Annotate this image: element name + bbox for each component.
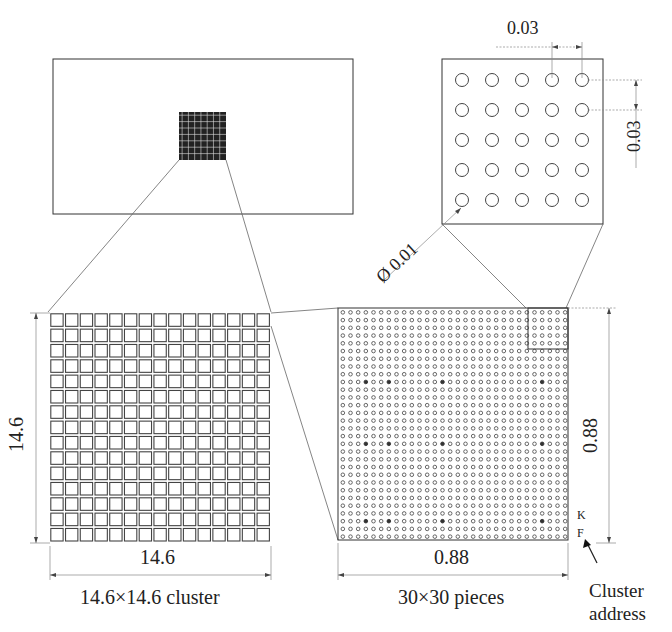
piece-dot [402,419,406,423]
piece-dot [517,504,521,508]
piece-dot [425,349,429,353]
cluster-cell [213,360,225,373]
cluster-cell [139,344,151,357]
piece-dot [387,442,391,446]
piece-dot [441,481,445,485]
piece-dot [448,411,452,415]
piece-dot [494,380,498,384]
cluster-cell [110,482,122,495]
cluster-cell [183,528,195,541]
piece-dot [502,311,506,315]
cluster-cell [139,513,151,526]
cluster-cell [198,467,210,480]
piece-dot [502,365,506,369]
piece-dot [410,419,414,423]
cluster-zoom-line-bottom [271,326,338,540]
piece-dot [402,380,406,384]
piece-dot [395,357,399,361]
piece-dot [410,488,414,492]
cluster-cell [257,314,269,327]
piece-dot [487,527,491,531]
piece-dot [556,481,560,485]
piece-dot [471,504,475,508]
cluster-cell [51,344,63,357]
piece-dot [563,419,567,423]
piece-dot [502,504,506,508]
piece-dot [510,458,514,462]
cluster-cell [183,452,195,465]
piece-dot [525,380,529,384]
piece-dot [441,419,445,423]
piece-dot [510,473,514,477]
cluster-cell [154,329,166,342]
piece-dot [464,519,468,523]
piece-dot [372,419,376,423]
piece-dot [487,318,491,322]
piece-dot [563,488,567,492]
piece-dot [379,519,383,523]
piece-dot [441,442,445,446]
cluster-cell [66,344,78,357]
cluster-cell [213,482,225,495]
chip-cluster-block [179,112,226,160]
cluster-cell [51,390,63,403]
cluster-cell [154,390,166,403]
piece-dot [510,388,514,392]
piece-dot [533,380,537,384]
piece-dot [456,357,460,361]
cluster-cell [80,513,92,526]
piece-dot [387,380,391,384]
cluster-width-label: 14.6 [140,546,175,569]
cluster-cell [139,482,151,495]
piece-dot [425,496,429,500]
piece-dot [487,311,491,315]
piece-dot [372,458,376,462]
piece-dot [456,512,460,516]
piece-dot [540,481,544,485]
piece-dot [502,403,506,407]
piece-dot [364,403,368,407]
cluster-cell [228,467,240,480]
piece-dot [349,403,353,407]
piece-dot [556,311,560,315]
piece-dot [448,365,452,369]
piece-dot [563,442,567,446]
piece-dot [402,357,406,361]
cluster-cell [66,421,78,434]
piece-dot [479,419,483,423]
cluster-cell [198,528,210,541]
piece-dot [387,342,391,346]
piece-dot [433,488,437,492]
cluster-cell [66,314,78,327]
piece-dot [540,488,544,492]
piece-dot [525,488,529,492]
piece-dot [341,473,345,477]
piece-dot [387,357,391,361]
piece-dot [425,527,429,531]
piece-dot [464,411,468,415]
piece-dot [418,527,422,531]
piece-dot [395,535,399,539]
cluster-cell [169,528,181,541]
piece-dot [441,411,445,415]
piece-dot [418,396,422,400]
piece-dot [395,411,399,415]
cluster-cell [213,329,225,342]
pitch-x-label: 0.03 [507,18,539,39]
piece-dot [464,465,468,469]
piece-dot [494,434,498,438]
piece-dot [372,380,376,384]
piece-dot [533,527,537,531]
piece-dot [502,427,506,431]
piece-dot [479,488,483,492]
piece-dot [379,380,383,384]
piece-dot [410,481,414,485]
piece-dot [556,496,560,500]
arrow-up-icon [34,313,38,319]
cluster-cell [198,406,210,419]
piece-dot [387,465,391,469]
piece-dot [471,396,475,400]
cluster-cell [228,314,240,327]
piece-dot [341,372,345,376]
cluster-cell [213,436,225,449]
